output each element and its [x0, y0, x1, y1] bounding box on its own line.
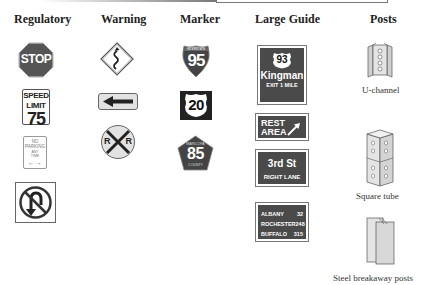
distance-miles: 315 [294, 229, 303, 239]
stop-text: STOP [18, 52, 54, 66]
lane-text: RIGHT LANE [258, 173, 306, 181]
top-rule [40, 0, 216, 2]
kingman-exit-sign: 93 Kingman EXIT 1 MILE [258, 46, 306, 104]
winding-road-sign [100, 42, 134, 76]
distance-sign: ALBANY 32 ROCHESTER 248 BUFFALO 315 [256, 203, 308, 241]
no-parking-sign: NO PARKING ANY TIME ←→ [23, 136, 47, 169]
railroad-crossing-sign: R R [100, 124, 136, 160]
route-93-number: 93 [272, 54, 292, 65]
interstate-number: 95 [181, 51, 211, 71]
u-channel-label: U-channel [362, 85, 399, 95]
interstate-banner: INTERSTATE [181, 47, 211, 51]
left-arrow-sign [98, 93, 138, 110]
no-parking-line4: TIME [24, 154, 46, 158]
route-93-shield: 93 [272, 52, 292, 69]
diagonal-arrow-icon [286, 122, 302, 136]
header-large-guide: Large Guide [255, 12, 320, 27]
u-channel-post-icon [365, 42, 395, 80]
top-frame [216, 0, 388, 3]
rxr-left-letter: R [104, 136, 111, 146]
street-sign: 3rd St RIGHT LANE [256, 150, 308, 186]
county-number: 85 [177, 145, 214, 163]
no-u-turn-icon [16, 183, 55, 222]
header-regulatory: Regulatory [14, 12, 71, 27]
no-parking-line2: PARKING [24, 144, 46, 149]
breakaway-label: Steel breakaway posts [333, 273, 413, 283]
double-arrow-icon: ←→ [24, 159, 46, 166]
winding-road-icon [100, 42, 134, 76]
header-warning: Warning [101, 12, 146, 27]
distance-miles: 32 [297, 209, 303, 219]
distance-row: ROCHESTER 248 [261, 219, 303, 229]
speed-limit-sign: SPEED LIMIT 75 [22, 89, 50, 125]
speed-label: SPEED [23, 92, 49, 100]
header-posts: Posts [370, 12, 397, 27]
us-route-number: 20 [180, 96, 212, 113]
street-name: 3rd St [258, 158, 306, 170]
city-name: Kingman [260, 70, 304, 81]
rest-area-sign: REST AREA [256, 114, 308, 140]
county-85-marker: MARICOPA 85 COUNTY [177, 135, 214, 171]
square-tube-post-icon [364, 128, 396, 188]
rxr-right-letter: R [126, 136, 133, 146]
speed-value: 75 [23, 110, 49, 128]
us-route-20-shield: 20 [180, 91, 212, 120]
distance-row: BUFFALO 315 [261, 229, 303, 239]
distance-row: ALBANY 32 [261, 209, 303, 219]
interstate-95-shield: INTERSTATE 95 [181, 44, 211, 78]
distance-miles: 248 [296, 219, 305, 229]
stop-sign: STOP [18, 42, 54, 78]
distance-city: ROCHESTER [261, 219, 296, 229]
breakaway-post-icon [364, 216, 398, 266]
exit-distance: EXIT 1 MILE [260, 81, 304, 89]
square-tube-label: Square tube [356, 191, 399, 201]
distance-city: ALBANY [261, 209, 284, 219]
county-bottom-text: COUNTY [177, 163, 214, 167]
no-u-turn-sign [15, 182, 56, 223]
left-arrow-icon [99, 94, 137, 109]
header-marker: Marker [180, 12, 220, 27]
distance-city: BUFFALO [261, 229, 287, 239]
